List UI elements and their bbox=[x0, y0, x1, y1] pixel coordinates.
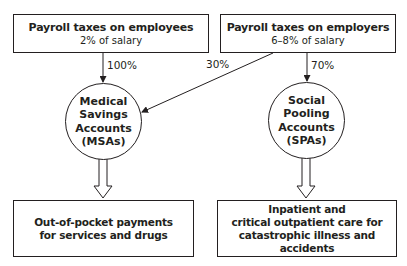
source-subtitle: 6–8% of salary bbox=[271, 34, 345, 47]
hollow-arrow-msa bbox=[94, 158, 112, 198]
source-box-employers: Payroll taxes on employers 6–8% of salar… bbox=[220, 14, 396, 53]
msa-line: (MSAs) bbox=[82, 135, 126, 149]
use-line: Inpatient and bbox=[268, 203, 345, 216]
msa-line: Medical bbox=[80, 95, 128, 109]
spa-line: Pooling bbox=[283, 107, 329, 121]
spa-line: Accounts bbox=[278, 121, 335, 135]
spa-line: (SPAs) bbox=[286, 134, 326, 148]
msa-circle: Medical Savings Accounts (MSAs) bbox=[65, 83, 142, 160]
msa-line: Savings bbox=[79, 108, 128, 122]
source-box-employees: Payroll taxes on employees 2% of salary bbox=[13, 14, 209, 53]
source-title: Payroll taxes on employers bbox=[227, 21, 390, 34]
hollow-arrow-spa bbox=[297, 158, 315, 198]
msa-line: Accounts bbox=[75, 122, 132, 136]
flow-label-70: 70% bbox=[311, 59, 334, 71]
spa-circle: Social Pooling Accounts (SPAs) bbox=[268, 82, 345, 159]
use-line: critical outpatient care for bbox=[231, 216, 382, 229]
flow-label-100: 100% bbox=[107, 59, 137, 71]
use-line: catastrophic illness and accidents bbox=[218, 229, 396, 255]
source-subtitle: 2% of salary bbox=[80, 34, 142, 47]
source-title: Payroll taxes on employees bbox=[29, 21, 194, 34]
use-line: for services and drugs bbox=[39, 229, 167, 242]
spa-line: Social bbox=[288, 94, 325, 108]
use-line: Out-of-pocket payments bbox=[34, 216, 173, 229]
flow-label-30: 30% bbox=[206, 58, 229, 70]
use-box-out-of-pocket: Out-of-pocket payments for services and … bbox=[13, 200, 194, 257]
use-box-inpatient: Inpatient and critical outpatient care f… bbox=[217, 200, 397, 257]
